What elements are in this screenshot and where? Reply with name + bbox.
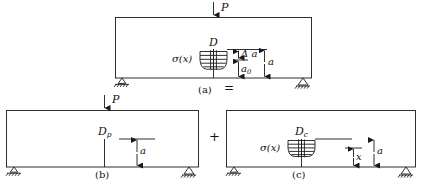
dc-subscript: c: [304, 130, 308, 139]
a0-subscript: 0: [247, 68, 251, 76]
panel-a-load-label: P: [221, 2, 228, 13]
plus-sign: +: [209, 130, 220, 143]
equals-sign: =: [224, 82, 234, 94]
panel-a-crack-label: D: [209, 37, 218, 48]
panel-a-a-label: a: [268, 57, 274, 67]
dp-base: D: [98, 125, 107, 138]
panel-b-a-label: a: [140, 146, 146, 156]
panel-c-caption: (c): [292, 170, 305, 180]
panel-a-stress-label: σ(x): [172, 54, 192, 64]
panel-a-delta-a-label: Δ a: [241, 49, 257, 59]
panel-c-a-label: a: [377, 146, 383, 156]
panel-a-support-right: [295, 78, 310, 89]
panel-b-load-label: P: [112, 94, 119, 105]
figure-canvas: P D σ(x) Δ a a0 a (a) = P Dp a (b) + Dc …: [0, 0, 422, 186]
panel-b-crack-label: Dp: [98, 126, 112, 138]
delta-a-text: Δ a: [241, 48, 257, 59]
panel-b-support-right: [181, 167, 196, 178]
panel-c-crack-label: Dc: [295, 126, 308, 138]
panel-c-support-right: [398, 167, 413, 178]
panel-c-dimension-guides: [315, 139, 362, 148]
panel-c-stress-profile: [288, 139, 315, 157]
dc-base: D: [295, 125, 304, 138]
panel-b-support-left: [6, 167, 21, 176]
panel-b-caption: (b): [95, 170, 109, 180]
dp-subscript: p: [107, 130, 112, 139]
panel-a-support-left: [114, 78, 129, 87]
panel-c-stress-label: σ(x): [260, 143, 280, 153]
panel-b-beam: [7, 111, 199, 168]
panel-c-support-left: [226, 167, 241, 176]
panel-c-x-label: x: [356, 152, 362, 162]
panel-a-a0-label: a0: [241, 64, 251, 75]
panel-a-caption: (a): [198, 85, 212, 95]
panel-a-stress-profile: [200, 50, 227, 71]
